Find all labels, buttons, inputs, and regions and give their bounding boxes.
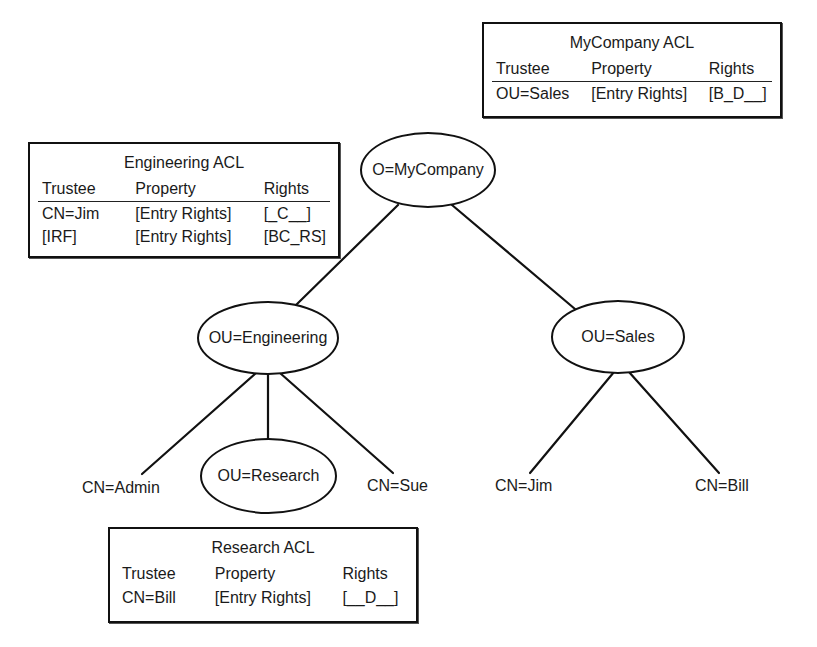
- col-rights: Rights: [260, 178, 330, 202]
- leaf-admin: CN=Admin: [82, 479, 160, 497]
- leaf-sue: CN=Sue: [367, 477, 428, 495]
- property-cell: [Entry Rights]: [587, 82, 705, 106]
- col-trustee: Trustee: [38, 178, 131, 202]
- engineering-acl-table: Trustee Property Rights CN=Jim [Entry Ri…: [38, 178, 330, 248]
- node-mycompany: O=MyCompany: [360, 132, 496, 208]
- property-cell: [Entry Rights]: [131, 202, 259, 226]
- acl-row: OU=Sales [Entry Rights] [B_D__]: [492, 82, 772, 106]
- mycompany-acl-table: Trustee Property Rights OU=Sales [Entry …: [492, 58, 772, 105]
- trustee-cell: [IRF]: [38, 225, 131, 248]
- rights-cell: [BC_RS]: [260, 225, 330, 248]
- col-trustee: Trustee: [118, 563, 211, 586]
- acl-row: CN=Jim [Entry Rights] [_C__]: [38, 202, 330, 226]
- mycompany-acl-title: MyCompany ACL: [484, 34, 780, 52]
- node-label: OU=Sales: [581, 328, 654, 346]
- trustee-cell: CN=Bill: [118, 586, 211, 609]
- col-property: Property: [587, 58, 705, 82]
- node-research: OU=Research: [200, 438, 337, 514]
- col-property: Property: [211, 563, 339, 586]
- edge-sales-jim: [530, 372, 614, 473]
- leaf-jim: CN=Jim: [495, 477, 552, 495]
- engineering-acl-title: Engineering ACL: [30, 154, 338, 172]
- rights-cell: [_C__]: [260, 202, 330, 226]
- col-rights: Rights: [338, 563, 408, 586]
- mycompany-acl-box: MyCompany ACL Trustee Property Rights OU…: [482, 22, 782, 118]
- edge-mycompany-sales: [452, 205, 575, 309]
- trustee-cell: CN=Jim: [38, 202, 131, 226]
- node-label: OU=Research: [218, 467, 320, 485]
- col-property: Property: [131, 178, 259, 202]
- rights-cell: [B_D__]: [705, 82, 772, 106]
- research-acl-table: Trustee Property Rights CN=Bill [Entry R…: [118, 563, 408, 609]
- edge-sales-bill: [629, 372, 719, 473]
- node-label: O=MyCompany: [372, 161, 484, 179]
- research-acl-title: Research ACL: [110, 539, 416, 557]
- research-acl-box: Research ACL Trustee Property Rights CN=…: [108, 527, 418, 623]
- col-rights: Rights: [705, 58, 772, 82]
- col-trustee: Trustee: [492, 58, 587, 82]
- acl-row: CN=Bill [Entry Rights] [__D__]: [118, 586, 408, 609]
- node-engineering: OU=Engineering: [197, 301, 339, 375]
- leaf-bill: CN=Bill: [695, 477, 749, 495]
- property-cell: [Entry Rights]: [131, 225, 259, 248]
- rights-cell: [__D__]: [338, 586, 408, 609]
- engineering-acl-box: Engineering ACL Trustee Property Rights …: [28, 142, 340, 258]
- property-cell: [Entry Rights]: [211, 586, 339, 609]
- node-label: OU=Engineering: [209, 329, 328, 347]
- node-sales: OU=Sales: [551, 300, 685, 374]
- acl-row: [IRF] [Entry Rights] [BC_RS]: [38, 225, 330, 248]
- trustee-cell: OU=Sales: [492, 82, 587, 106]
